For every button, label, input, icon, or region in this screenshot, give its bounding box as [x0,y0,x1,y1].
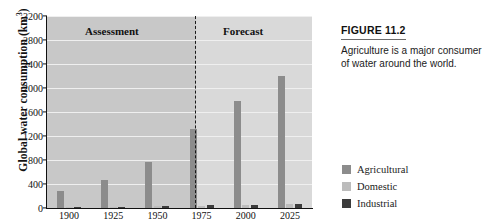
bar-agricultural-1925 [101,180,108,208]
bar-agricultural-2000 [234,101,241,208]
caption-panel: FIGURE 11.2 Agriculture is a major consu… [341,0,491,224]
x-tick-label: 2000 [236,210,256,221]
y-tick-mark [43,15,47,16]
x-tick-label: 1950 [147,210,167,221]
gridline [47,136,312,137]
y-tick-label: 800 [28,155,43,166]
y-tick-label: 2400 [23,59,43,70]
legend-item-agricultural: Agricultural [342,161,482,178]
bar-agricultural-1950 [145,162,152,208]
y-tick-mark [43,135,47,136]
bar-agricultural-1900 [57,191,64,208]
legend-swatch-icon [342,182,351,191]
legend-swatch-icon [342,199,351,208]
gridline [47,64,312,65]
y-tick-mark [43,111,47,112]
legend-item-industrial: Industrial [342,195,482,212]
x-tick-label: 2025 [280,210,300,221]
y-tick-label: 1200 [23,131,43,142]
assessment-forecast-divider [195,16,196,208]
figure-panel: Global water consumption (km3) Assessmen… [0,0,330,224]
legend-item-domestic: Domestic [342,178,482,195]
x-tick-label: 1900 [59,210,79,221]
gridline [47,160,312,161]
figure-caption: Agriculture is a major consumer of water… [341,44,486,70]
y-tick-mark [43,183,47,184]
y-tick-mark [43,159,47,160]
legend: AgriculturalDomesticIndustrial [342,161,482,212]
y-tick-label: 2800 [23,35,43,46]
legend-label: Agricultural [357,164,408,175]
legend-label: Industrial [357,198,397,209]
region-label-forecast: Forecast [223,25,263,37]
y-tick-mark [43,87,47,88]
legend-swatch-icon [342,165,351,174]
y-tick-mark [43,207,47,208]
y-tick-label: 3200 [23,11,43,22]
x-tick-label: 1975 [192,210,212,221]
y-axis-ticks: 0400800120016002000240028003200 [0,0,47,224]
gridline [47,40,312,41]
figure-number: FIGURE 11.2 [341,24,406,36]
y-tick-label: 2000 [23,83,43,94]
bar-agricultural-2025 [278,76,285,208]
y-tick-label: 1600 [23,107,43,118]
y-tick-mark [43,39,47,40]
plot-area: Assessment Forecast [47,16,312,208]
y-tick-label: 400 [28,179,43,190]
region-label-assessment: Assessment [85,25,139,37]
gridline [47,88,312,89]
x-tick-label: 1925 [103,210,123,221]
x-axis-ticks: 190019251950197520002025 [47,209,312,224]
gridline [47,112,312,113]
gridline [47,184,312,185]
caption-rule [341,39,406,40]
legend-label: Domestic [357,181,397,192]
y-tick-mark [43,63,47,64]
gridline [47,16,312,17]
